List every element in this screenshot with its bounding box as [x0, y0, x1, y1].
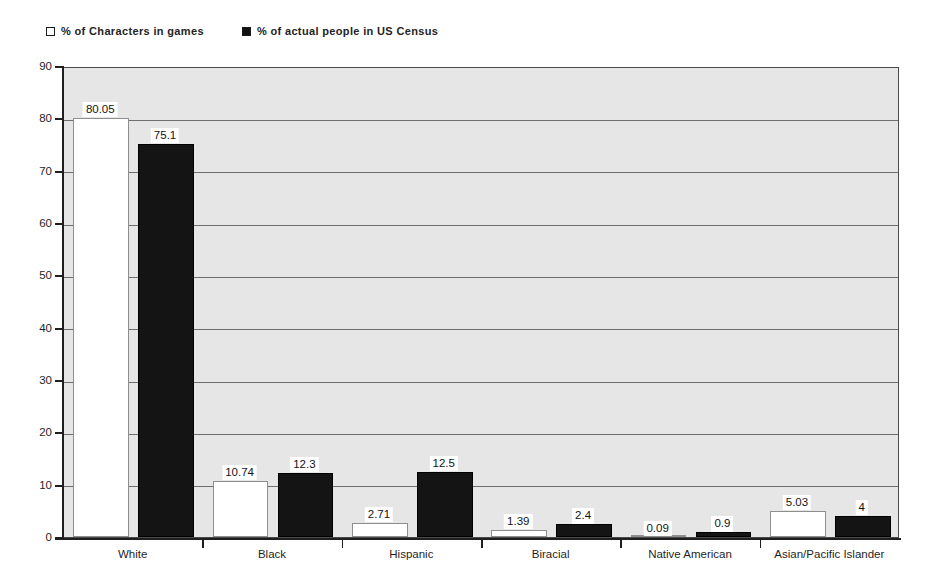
plot-inner	[64, 68, 898, 537]
category-label: Asian/Pacific Islander	[774, 549, 884, 561]
legend-label-characters: % of Characters in games	[61, 26, 204, 37]
x-tick-mark	[342, 539, 344, 548]
bar-value-label: 12.3	[290, 457, 318, 472]
y-tick-label: 80	[18, 114, 52, 126]
legend-entry-census: % of actual people in US Census	[242, 26, 438, 37]
y-tick-label: 30	[18, 375, 52, 387]
bar	[696, 532, 752, 537]
y-tick-mark	[55, 485, 64, 487]
x-tick-mark	[620, 539, 622, 548]
plot-area	[63, 67, 899, 538]
category-label: Hispanic	[389, 549, 433, 561]
legend-label-census: % of actual people in US Census	[257, 26, 438, 37]
chart-legend: % of Characters in games % of actual peo…	[46, 22, 438, 40]
y-tick-mark	[55, 118, 64, 120]
y-tick-label: 40	[18, 323, 52, 335]
bar	[491, 530, 547, 537]
bar	[278, 473, 334, 537]
bar-value-label: 12.5	[430, 456, 458, 471]
x-tick-mark	[202, 539, 204, 548]
y-tick-mark	[55, 537, 64, 539]
bar-value-label: 0.09	[643, 521, 671, 536]
x-tick-mark	[481, 539, 483, 548]
y-tick-label: 10	[18, 480, 52, 492]
y-tick-mark	[55, 223, 64, 225]
y-tick-label: 90	[18, 61, 52, 73]
y-tick-label: 0	[18, 532, 52, 544]
gridline	[64, 120, 898, 121]
bar	[352, 523, 408, 537]
bar	[138, 144, 194, 537]
y-tick-label: 50	[18, 271, 52, 283]
bar	[770, 511, 826, 537]
bar	[73, 118, 129, 537]
bar	[835, 516, 891, 537]
bar-value-label: 2.71	[365, 507, 393, 522]
bar-value-label: 1.39	[504, 514, 532, 529]
y-tick-mark	[55, 275, 64, 277]
bar	[556, 524, 612, 537]
category-label: Native American	[648, 549, 732, 561]
bar-value-label: 10.74	[222, 465, 257, 480]
y-tick-label: 60	[18, 218, 52, 230]
category-label: Black	[258, 549, 286, 561]
y-tick-mark	[55, 380, 64, 382]
bar-value-label: 80.05	[83, 102, 118, 117]
bar-value-label: 5.03	[783, 495, 811, 510]
legend-entry-characters: % of Characters in games	[46, 26, 204, 37]
open-square-icon	[46, 27, 55, 36]
y-tick-mark	[55, 432, 64, 434]
filled-square-icon	[242, 27, 251, 36]
y-axis-line	[62, 66, 64, 540]
x-tick-mark	[760, 539, 762, 548]
y-tick-label: 20	[18, 428, 52, 440]
y-tick-mark	[55, 66, 64, 68]
category-label: Biracial	[532, 549, 570, 561]
bar-value-label: 4	[856, 500, 868, 515]
y-tick-mark	[55, 328, 64, 330]
category-label: White	[118, 549, 147, 561]
y-tick-label: 70	[18, 166, 52, 178]
x-axis-line	[55, 538, 901, 540]
bar	[213, 481, 269, 537]
bar	[417, 472, 473, 537]
bar-value-label: 0.9	[711, 516, 733, 531]
y-tick-mark	[55, 171, 64, 173]
bar-value-label: 75.1	[151, 128, 179, 143]
bar-value-label: 2.4	[572, 508, 594, 523]
